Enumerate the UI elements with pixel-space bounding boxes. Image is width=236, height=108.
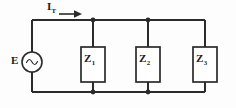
label-total-current-subscript: T: [52, 7, 57, 14]
label-impedance-2-subscript: 2: [147, 59, 150, 66]
label-impedance-2: Z2: [139, 53, 150, 64]
label-impedance-1: Z1: [84, 53, 95, 64]
current-arrow-head-icon: [74, 10, 82, 18]
junction-dot-top-z1: [91, 18, 96, 23]
label-total-current: IT: [47, 1, 56, 12]
label-total-current-symbol: I: [47, 0, 51, 12]
circuit-diagram: IT E Z1 Z2 Z3: [0, 0, 236, 108]
label-source-symbol: E: [11, 54, 18, 66]
label-impedance-3: Z3: [196, 53, 207, 64]
label-impedance-1-subscript: 1: [92, 59, 95, 66]
label-impedance-3-subscript: 3: [204, 59, 207, 66]
label-impedance-2-symbol: Z: [139, 52, 146, 64]
label-source: E: [11, 55, 18, 66]
label-impedance-3-symbol: Z: [196, 52, 203, 64]
junction-dot-top-z2: [146, 18, 151, 23]
junction-dot-bottom-z2: [146, 90, 151, 95]
junction-dot-bottom-z1: [91, 90, 96, 95]
label-impedance-1-symbol: Z: [84, 52, 91, 64]
